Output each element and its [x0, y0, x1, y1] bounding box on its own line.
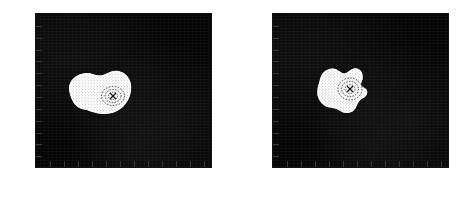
- plot-area-right: 20 10 0 10 20 20 10 0 10 20: [272, 13, 449, 168]
- y-tick-major: [272, 52, 273, 53]
- x-tick-major: [194, 167, 195, 168]
- y-tick-major: [35, 52, 36, 53]
- x-tick-major: [396, 167, 397, 168]
- y-tick-major: [272, 129, 273, 130]
- outer-contour: [70, 71, 131, 113]
- x-tick-major: [291, 167, 292, 168]
- y-tick-major: [272, 167, 273, 168]
- source-blob-left: [58, 56, 138, 128]
- source-blob-right: [307, 58, 373, 124]
- x-tick-major: [89, 167, 90, 168]
- y-tick-major: [35, 14, 36, 15]
- y-tick-major: [35, 129, 36, 130]
- source-overlay-right: [273, 14, 448, 167]
- x-tick-major: [124, 167, 125, 168]
- plot-area-left: 20 10 0 10 20 20 10 0 10 20: [35, 13, 212, 168]
- y-tick-major: [35, 91, 36, 92]
- x-tick-major: [431, 167, 432, 168]
- y-tick-major: [272, 14, 273, 15]
- outer-contour: [318, 69, 367, 113]
- y-tick-major: [35, 167, 36, 168]
- figure-panels: 20 10 0 10 20 20 10 0 10 20: [0, 0, 461, 199]
- panel-left: 20 10 0 10 20 20 10 0 10 20: [0, 0, 230, 199]
- x-tick-major: [326, 167, 327, 168]
- x-tick-major: [361, 167, 362, 168]
- x-tick-major: [159, 167, 160, 168]
- x-tick-major: [54, 167, 55, 168]
- y-tick-major: [272, 91, 273, 92]
- source-overlay-left: [36, 14, 211, 167]
- panel-right: 20 10 0 10 20 20 10 0 10 20: [230, 0, 460, 199]
